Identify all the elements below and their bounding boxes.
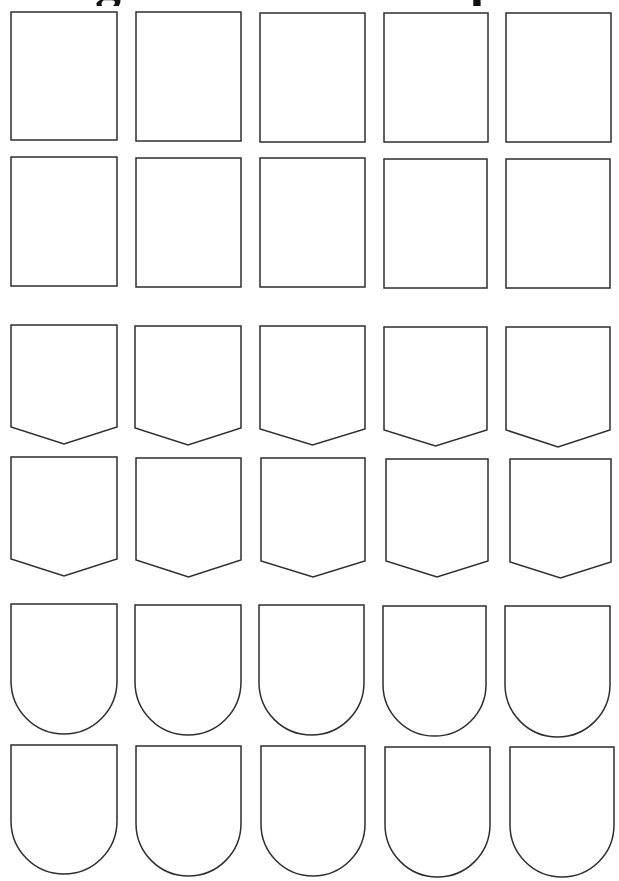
pointed-shield-outline — [384, 327, 487, 446]
round-shield-outline — [383, 606, 486, 736]
round-shield-outline — [259, 605, 364, 735]
shape-row-3 — [11, 325, 610, 447]
rectangle-outline — [384, 13, 488, 142]
shape-row-5 — [11, 604, 610, 737]
round-shield-outline — [136, 746, 241, 876]
pointed-shield-outline — [261, 458, 365, 577]
rectangle-outline — [11, 12, 117, 140]
shield-template-grid — [0, 0, 619, 881]
round-shield-outline — [261, 746, 365, 876]
rectangle-outline — [506, 159, 610, 288]
shape-row-6 — [11, 745, 614, 877]
pointed-shield-outline — [260, 326, 365, 445]
round-shield-outline — [510, 747, 614, 877]
pointed-shield-outline — [136, 458, 241, 577]
round-shield-outline — [11, 604, 117, 734]
pointed-shield-outline — [506, 327, 610, 447]
rectangle-outline — [384, 159, 487, 288]
round-shield-outline — [385, 747, 490, 877]
rectangle-outline — [136, 158, 241, 287]
round-shield-outline — [11, 745, 117, 874]
round-shield-outline — [135, 605, 241, 735]
rectangle-outline — [11, 157, 117, 286]
rectangle-outline — [260, 158, 365, 287]
pointed-shield-outline — [11, 325, 117, 444]
shape-row-1 — [11, 12, 611, 142]
rectangle-outline — [506, 13, 611, 142]
shape-row-2 — [11, 157, 610, 288]
pointed-shield-outline — [510, 459, 611, 578]
rectangle-outline — [136, 12, 241, 141]
round-shield-outline — [505, 606, 610, 737]
shape-row-4 — [11, 457, 611, 578]
pointed-shield-outline — [135, 326, 241, 445]
rectangle-outline — [260, 13, 365, 142]
pointed-shield-outline — [386, 459, 488, 577]
pointed-shield-outline — [11, 457, 117, 576]
